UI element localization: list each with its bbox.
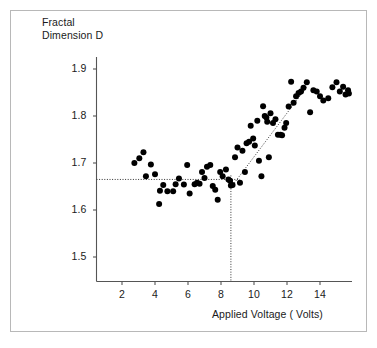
- scatter-point: [266, 154, 272, 160]
- scatter-point: [346, 90, 352, 96]
- scatter-point: [152, 171, 158, 177]
- y-tick-label: 1.5: [53, 251, 87, 262]
- scatter-point: [223, 167, 229, 173]
- scatter-point: [334, 79, 340, 85]
- scatter-point: [258, 173, 264, 179]
- scatter-point: [199, 169, 205, 175]
- x-tick-label: 6: [177, 289, 199, 300]
- scatter-point: [202, 175, 208, 181]
- x-tick-label: 14: [309, 289, 331, 300]
- scatter-point: [148, 161, 154, 167]
- scatter-point: [181, 182, 187, 188]
- scatter-point: [248, 123, 254, 129]
- scatter-point: [207, 162, 213, 168]
- scatter-point: [283, 120, 289, 126]
- scatter-point: [157, 188, 163, 194]
- x-tick-label: 8: [210, 289, 232, 300]
- scatter-point: [250, 136, 256, 142]
- scatter-point: [260, 103, 266, 109]
- scatter-point: [288, 79, 294, 85]
- scatter-point: [212, 187, 218, 193]
- scatter-point: [184, 162, 190, 168]
- scatter-point: [160, 182, 166, 188]
- scatter-point: [325, 95, 331, 101]
- scatter-point: [237, 180, 243, 186]
- scatter-point: [230, 182, 236, 188]
- scatter-point: [329, 84, 335, 90]
- y-tick-label: 1.9: [53, 63, 87, 74]
- scatter-point: [131, 160, 137, 166]
- scatter-point: [215, 197, 221, 203]
- y-tick-label: 1.8: [53, 110, 87, 121]
- scatter-point: [156, 201, 162, 207]
- scatter-point: [136, 155, 142, 161]
- scatter-point: [268, 110, 274, 116]
- scatter-point: [176, 176, 182, 182]
- x-tick-label: 12: [276, 289, 298, 300]
- scatter-point: [272, 116, 278, 122]
- scatter-point: [232, 154, 238, 160]
- scatter-point: [239, 148, 245, 154]
- scatter-point: [256, 158, 262, 164]
- scatter-point: [173, 181, 179, 187]
- scatter-point: [187, 191, 193, 197]
- scatter-point: [291, 100, 297, 106]
- scatter-point: [143, 173, 149, 179]
- scatter-point: [235, 144, 241, 150]
- figure-container: Fractal Dimension D Applied Voltage ( Vo…: [0, 0, 377, 348]
- scatter-point: [279, 132, 285, 138]
- y-tick-label: 1.7: [53, 157, 87, 168]
- scatter-point: [307, 109, 313, 115]
- scatter-point: [164, 188, 170, 194]
- scatter-point: [264, 119, 270, 125]
- y-tick-label: 1.6: [53, 204, 87, 215]
- scatter-point: [301, 85, 307, 91]
- data-points: [131, 79, 352, 207]
- scatter-point: [304, 79, 310, 85]
- scatter-point: [286, 104, 292, 110]
- x-tick-label: 4: [144, 289, 166, 300]
- scatter-point: [140, 149, 146, 155]
- scatter-point: [170, 188, 176, 194]
- scatter-point: [340, 84, 346, 90]
- scatter-point: [242, 169, 248, 175]
- scatter-point: [220, 173, 226, 179]
- x-tick-label: 10: [243, 289, 265, 300]
- scatter-point: [197, 181, 203, 187]
- x-tick-label: 2: [111, 289, 133, 300]
- scatter-point: [254, 118, 260, 124]
- scatter-point: [252, 143, 258, 149]
